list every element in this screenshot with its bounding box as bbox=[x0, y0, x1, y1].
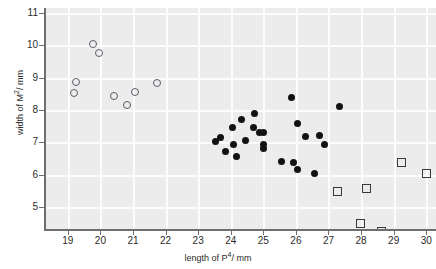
data-point-open-square bbox=[397, 158, 406, 167]
y-axis-line bbox=[44, 8, 46, 230]
x-tick-label: 20 bbox=[85, 236, 115, 246]
data-point-open-square bbox=[422, 169, 431, 178]
gridline-horizontal bbox=[45, 78, 436, 80]
data-point-filled-circle bbox=[294, 120, 301, 127]
data-point-filled-circle bbox=[290, 159, 297, 166]
x-axis-line bbox=[44, 229, 436, 231]
y-tick-mark bbox=[39, 110, 45, 111]
data-point-filled-circle bbox=[229, 124, 236, 131]
gridline-vertical bbox=[328, 8, 330, 230]
gridline-vertical bbox=[231, 8, 233, 230]
x-tick-label: 21 bbox=[118, 236, 148, 246]
data-point-open-circle bbox=[95, 49, 103, 57]
gridline-vertical bbox=[133, 8, 135, 230]
data-point-open-square bbox=[333, 187, 342, 196]
x-axis-title-base: length of P bbox=[185, 253, 228, 263]
y-axis-title-base: width of M bbox=[15, 94, 25, 135]
data-point-filled-circle bbox=[321, 141, 328, 148]
data-point-open-circle bbox=[131, 88, 139, 96]
x-tick-label: 26 bbox=[281, 236, 311, 246]
gridline-horizontal bbox=[45, 110, 436, 112]
x-tick-label: 27 bbox=[313, 236, 343, 246]
data-point-open-circle bbox=[110, 92, 118, 100]
y-axis-title-unit: / mm bbox=[15, 70, 25, 90]
gridline-horizontal bbox=[45, 13, 436, 15]
data-point-filled-circle bbox=[217, 134, 224, 141]
x-tick-label: 23 bbox=[183, 236, 213, 246]
data-point-filled-circle bbox=[302, 133, 309, 140]
x-tick-label: 19 bbox=[53, 236, 83, 246]
data-point-open-square bbox=[356, 219, 365, 228]
y-tick-label: 11 bbox=[2, 8, 38, 18]
data-point-filled-circle bbox=[230, 141, 237, 148]
y-tick-mark bbox=[39, 207, 45, 208]
gridline-horizontal bbox=[45, 207, 436, 209]
x-tick-label: 25 bbox=[248, 236, 278, 246]
data-point-open-square bbox=[362, 184, 371, 193]
data-point-open-circle bbox=[89, 40, 97, 48]
y-axis-title-sup: 2 bbox=[13, 90, 20, 94]
gridline-vertical bbox=[361, 8, 363, 230]
x-axis-title: length of P4/ mm bbox=[0, 250, 436, 263]
data-point-open-circle bbox=[153, 79, 161, 87]
y-tick-mark bbox=[39, 45, 45, 46]
gridline-vertical bbox=[166, 8, 168, 230]
y-tick-mark bbox=[39, 175, 45, 176]
plot-panel bbox=[45, 8, 436, 230]
gridline-horizontal bbox=[45, 45, 436, 47]
gridline-horizontal bbox=[45, 175, 436, 177]
data-point-filled-circle bbox=[336, 103, 343, 110]
data-point-filled-circle bbox=[260, 145, 267, 152]
data-point-open-circle bbox=[70, 89, 78, 97]
data-point-filled-circle bbox=[278, 158, 285, 165]
data-point-filled-circle bbox=[233, 153, 240, 160]
y-axis-title: width of M2/ mm bbox=[12, 49, 25, 157]
gridline-vertical bbox=[263, 8, 265, 230]
gridline-vertical bbox=[100, 8, 102, 230]
y-tick-mark bbox=[39, 78, 45, 79]
data-point-filled-circle bbox=[260, 129, 267, 136]
gridline-vertical bbox=[394, 8, 396, 230]
data-point-filled-circle bbox=[288, 94, 295, 101]
y-tick-mark bbox=[39, 13, 45, 14]
gridline-vertical bbox=[426, 8, 428, 230]
y-tick-mark bbox=[39, 142, 45, 143]
x-tick-label: 22 bbox=[151, 236, 181, 246]
gridline-vertical bbox=[68, 8, 70, 230]
scatter-plot-figure: 567891011 192021222324252627282930 width… bbox=[0, 0, 436, 269]
data-point-filled-circle bbox=[238, 116, 245, 123]
data-point-open-circle bbox=[72, 78, 80, 86]
x-tick-label: 30 bbox=[411, 236, 436, 246]
y-tick-label: 6 bbox=[2, 170, 38, 180]
data-point-filled-circle bbox=[294, 166, 301, 173]
data-point-filled-circle bbox=[222, 148, 229, 155]
data-point-filled-circle bbox=[316, 132, 323, 139]
x-tick-label: 28 bbox=[346, 236, 376, 246]
x-axis-title-unit: / mm bbox=[231, 253, 251, 263]
data-point-filled-circle bbox=[251, 110, 258, 117]
gridline-horizontal bbox=[45, 142, 436, 144]
x-tick-label: 24 bbox=[216, 236, 246, 246]
y-tick-label: 5 bbox=[2, 202, 38, 212]
data-point-open-circle bbox=[123, 101, 131, 109]
gridline-vertical bbox=[198, 8, 200, 230]
x-tick-label: 29 bbox=[379, 236, 409, 246]
